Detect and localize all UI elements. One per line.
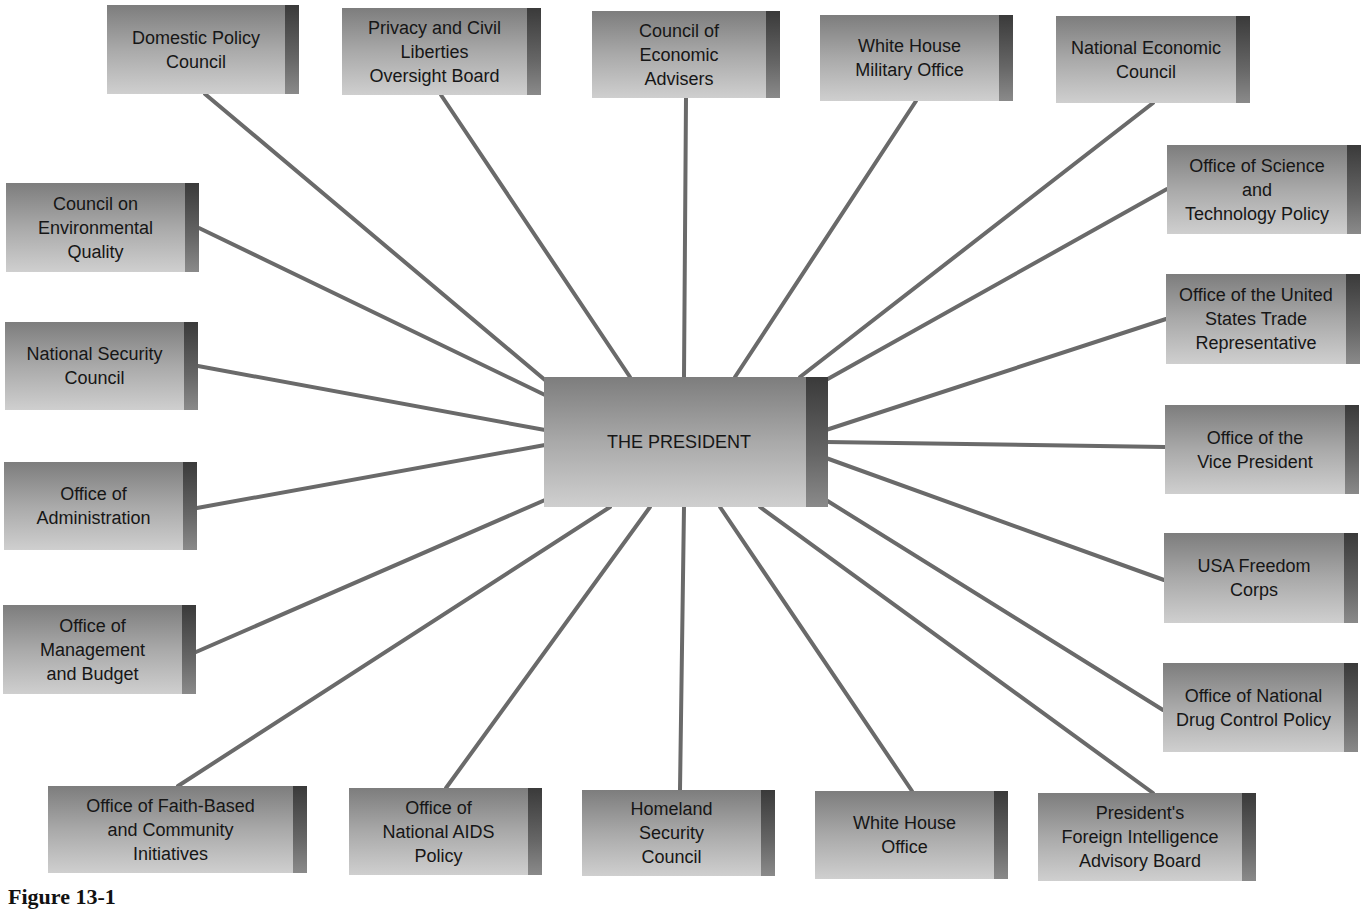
white-house-military-office-label: White House Military Office [855, 34, 964, 82]
usa-freedom-corps-label: USA Freedom Corps [1197, 554, 1310, 602]
connector-line [800, 103, 1153, 377]
office-of-administration-node: Office of Administration [4, 462, 197, 550]
connector-line [826, 189, 1167, 380]
domestic-policy-council-label: Domestic Policy Council [132, 26, 260, 74]
office-management-budget-label: Office of Management and Budget [40, 614, 145, 686]
connector-line [684, 98, 686, 377]
office-management-budget-node: Office of Management and Budget [3, 605, 196, 694]
connector-line [680, 507, 684, 790]
privacy-civil-liberties-board-node: Privacy and Civil Liberties Oversight Bo… [342, 8, 541, 95]
privacy-civil-liberties-board-label: Privacy and Civil Liberties Oversight Bo… [368, 16, 501, 88]
national-security-council-node: National Security Council [5, 322, 198, 410]
office-us-trade-representative-label: Office of the United States Trade Repres… [1179, 283, 1333, 355]
presidents-foreign-intelligence-board-label: President's Foreign Intelligence Advisor… [1061, 801, 1218, 873]
homeland-security-council-label: Homeland Security Council [630, 797, 712, 869]
council-economic-advisers-label: Council of Economic Advisers [639, 19, 719, 91]
office-vice-president-node: Office of the Vice President [1165, 405, 1359, 494]
office-science-technology-policy-node: Office of Science and Technology Policy [1167, 145, 1361, 234]
white-house-military-office-node: White House Military Office [820, 15, 1013, 101]
usa-freedom-corps-node: USA Freedom Corps [1164, 533, 1358, 623]
office-science-technology-policy-label: Office of Science and Technology Policy [1185, 154, 1329, 226]
national-security-council-label: National Security Council [26, 342, 162, 390]
council-environmental-quality-label: Council on Environmental Quality [38, 192, 153, 264]
office-us-trade-representative-node: Office of the United States Trade Repres… [1166, 274, 1360, 364]
connector-line [205, 94, 545, 380]
connector-line [826, 442, 1165, 447]
figure-caption: Figure 13-1 [8, 886, 116, 908]
the-president-label: THE PRESIDENT [607, 430, 751, 454]
connector-line [441, 95, 630, 377]
office-national-aids-policy-node: Office of National AIDS Policy [349, 788, 542, 875]
domestic-policy-council-node: Domestic Policy Council [107, 5, 299, 94]
connector-line [178, 507, 610, 786]
national-economic-council-node: National Economic Council [1056, 16, 1250, 103]
connector-line [197, 445, 545, 508]
office-of-administration-label: Office of Administration [36, 482, 150, 530]
connector-line [198, 366, 545, 430]
national-economic-council-label: National Economic Council [1071, 36, 1221, 84]
connector-line [735, 101, 916, 377]
connector-line [199, 228, 545, 395]
connector-line [826, 319, 1166, 430]
white-house-office-node: White House Office [815, 791, 1008, 879]
presidents-foreign-intelligence-board-node: President's Foreign Intelligence Advisor… [1038, 793, 1256, 881]
the-president-node: THE PRESIDENT [544, 377, 828, 507]
office-national-drug-control-policy-label: Office of National Drug Control Policy [1176, 684, 1331, 732]
council-environmental-quality-node: Council on Environmental Quality [6, 183, 199, 272]
homeland-security-council-node: Homeland Security Council [582, 790, 775, 876]
office-national-drug-control-policy-node: Office of National Drug Control Policy [1163, 663, 1358, 752]
council-economic-advisers-node: Council of Economic Advisers [592, 11, 780, 98]
connector-line [826, 458, 1164, 580]
office-faith-based-initiatives-node: Office of Faith-Based and Community Init… [48, 786, 307, 873]
office-faith-based-initiatives-label: Office of Faith-Based and Community Init… [86, 794, 255, 866]
office-national-aids-policy-label: Office of National AIDS Policy [382, 796, 494, 868]
office-vice-president-label: Office of the Vice President [1197, 426, 1313, 474]
connector-line [196, 500, 545, 652]
white-house-office-label: White House Office [853, 811, 956, 859]
